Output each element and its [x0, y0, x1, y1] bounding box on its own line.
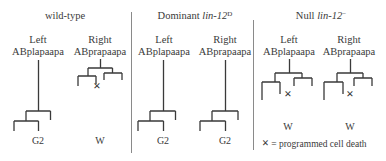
- fate-label-wt-right: W: [80, 135, 120, 147]
- cell-death-marker-icon: ×: [282, 88, 294, 100]
- tree-dom-left: [138, 60, 176, 131]
- legend-text: = programmed cell death: [271, 139, 366, 149]
- fate-label-dom-right: G2: [205, 135, 245, 147]
- fate-label-null-left: W: [268, 121, 308, 133]
- cell-death-marker-icon: ×: [91, 80, 103, 92]
- cell-death-marker-icon: ×: [344, 88, 356, 100]
- tree-wt-left: [14, 60, 51, 131]
- legend: × = programmed cell death: [262, 136, 367, 151]
- fate-label-dom-left: G2: [143, 135, 183, 147]
- fate-label-null-right: W: [330, 121, 370, 133]
- cell-death-legend-icon: ×: [262, 136, 269, 150]
- fate-label-wt-left: G2: [18, 135, 58, 147]
- tree-dom-right: [200, 60, 238, 131]
